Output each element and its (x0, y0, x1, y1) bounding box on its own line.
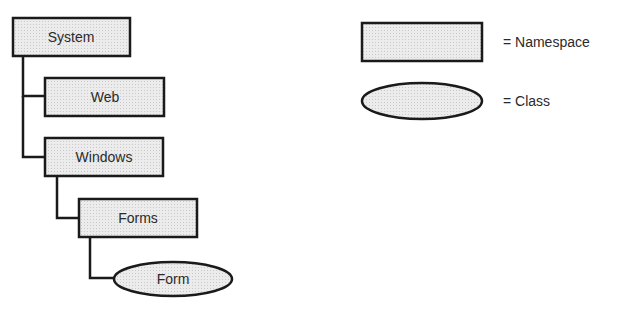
namespace-rectangle-icon (362, 23, 482, 61)
node-label: System (48, 29, 95, 45)
legend-item-class: = Class (362, 83, 550, 119)
node-windows: Windows (45, 138, 163, 176)
edge-system-windows (23, 96, 45, 157)
edge-forms-form (90, 237, 114, 278)
edge-system-web (23, 56, 45, 96)
legend: = Namespace = Class (362, 23, 590, 119)
legend-item-namespace: = Namespace (362, 23, 590, 61)
node-label: Windows (76, 149, 133, 165)
class-ellipse-icon (362, 83, 482, 119)
node-system: System (13, 18, 130, 56)
node-label: Form (157, 271, 190, 287)
node-form: Form (114, 262, 232, 296)
node-forms: Forms (79, 199, 197, 237)
namespace-hierarchy-diagram: System Web Windows Forms Form = Namespac… (0, 0, 622, 309)
legend-label: = Class (503, 93, 550, 109)
node-label: Forms (118, 210, 158, 226)
node-label: Web (91, 89, 120, 105)
node-web: Web (45, 78, 164, 116)
legend-label: = Namespace (503, 34, 590, 50)
edge-windows-forms (57, 176, 79, 218)
